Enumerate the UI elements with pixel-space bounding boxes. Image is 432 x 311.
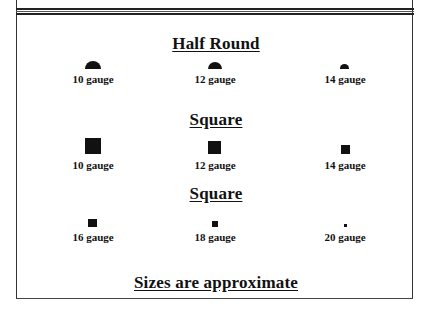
square-shape-icon (341, 145, 350, 154)
section-title-half-round: Half Round (0, 34, 432, 54)
gauge-label: 18 gauge (170, 231, 260, 243)
half-round-shape-icon (340, 64, 349, 69)
square-shape-icon (88, 219, 97, 227)
header-rule-bottom (16, 13, 414, 15)
section-title-square: Square (0, 110, 432, 130)
gauge-label: 14 gauge (300, 73, 390, 85)
sizes-note: Sizes are approximate (0, 273, 432, 293)
gauge-label: 12 gauge (170, 159, 260, 171)
square-shape-icon (344, 224, 347, 227)
gauge-label: 10 gauge (48, 159, 138, 171)
gauge-label: 12 gauge (170, 73, 260, 85)
gauge-label: 10 gauge (48, 73, 138, 85)
gauge-label: 14 gauge (300, 159, 390, 171)
square-shape-icon (212, 221, 218, 227)
section-title-square-small: Square (0, 184, 432, 204)
gauge-label: 16 gauge (48, 231, 138, 243)
gauge-label: 20 gauge (300, 231, 390, 243)
square-shape-icon (208, 141, 221, 154)
header-rule-middle (16, 11, 414, 12)
square-shape-icon (85, 138, 101, 154)
half-round-shape-icon (208, 62, 222, 69)
header-rule-top (16, 8, 414, 10)
